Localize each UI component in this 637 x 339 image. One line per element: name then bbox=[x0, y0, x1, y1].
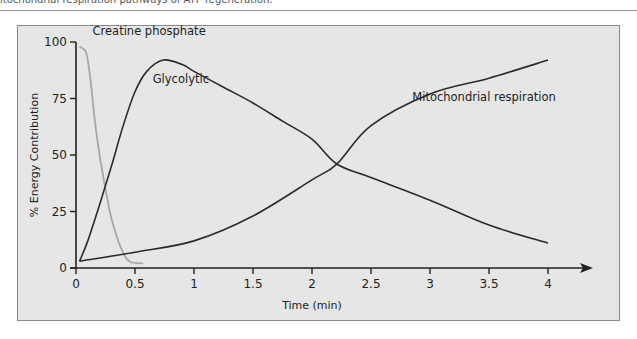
x-tick-label: 2 bbox=[308, 277, 316, 291]
y-tick-label: 75 bbox=[52, 92, 67, 106]
series-label-creatine-phosphate: Creatine phosphate bbox=[93, 24, 206, 38]
series-labels: Creatine phosphateGlycolyticMitochondria… bbox=[93, 24, 556, 104]
x-tick-label: 3.5 bbox=[479, 277, 498, 291]
x-tick-label: 1.5 bbox=[243, 277, 262, 291]
series-label-glycolytic: Glycolytic bbox=[153, 72, 209, 86]
y-tick-label: 100 bbox=[44, 35, 67, 49]
line-chart: 025507510000.511.522.533.54 Creatine pho… bbox=[0, 0, 637, 339]
axes: 025507510000.511.522.533.54 bbox=[44, 35, 593, 291]
y-tick-label: 0 bbox=[59, 261, 67, 275]
x-tick-label: 4 bbox=[544, 277, 552, 291]
series-group bbox=[80, 47, 548, 264]
series-label-mitochondrial-respiration: Mitochondrial respiration bbox=[412, 90, 556, 104]
series-line-creatine-phosphate bbox=[80, 47, 144, 264]
x-tick-label: 0 bbox=[72, 277, 80, 291]
y-tick-label: 25 bbox=[52, 205, 67, 219]
x-tick-label: 3 bbox=[426, 277, 434, 291]
y-axis-title: % Energy Contribution bbox=[28, 93, 41, 217]
x-tick-label: 2.5 bbox=[361, 277, 380, 291]
x-tick-label: 0.5 bbox=[125, 277, 144, 291]
y-tick-label: 50 bbox=[52, 148, 67, 162]
x-tick-label: 1 bbox=[190, 277, 198, 291]
x-axis-title: Time (min) bbox=[281, 299, 342, 312]
